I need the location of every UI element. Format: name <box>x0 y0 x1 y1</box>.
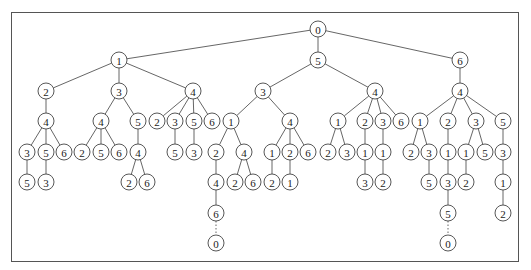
tree-node: 4 <box>185 83 201 99</box>
node-label: 6 <box>250 177 256 189</box>
tree-edge <box>268 97 284 115</box>
node-label: 4 <box>457 86 463 98</box>
tree-node: 6 <box>56 144 72 160</box>
node-label: 3 <box>473 116 479 128</box>
tree-node: 4 <box>93 113 109 129</box>
node-label: 4 <box>372 86 378 98</box>
tree-edge <box>86 128 97 145</box>
tree-node: 2 <box>38 83 54 99</box>
node-label: 2 <box>408 147 414 159</box>
node-label: 3 <box>116 86 122 98</box>
node-label: 6 <box>209 116 215 128</box>
tree-node: 4 <box>130 144 146 160</box>
node-label: 3 <box>380 116 386 128</box>
node-label: 3 <box>24 147 30 159</box>
tree-edge <box>179 98 189 114</box>
tree-node: 3 <box>19 144 35 160</box>
tree-node: 2 <box>320 144 336 160</box>
tree-node: 5 <box>421 174 437 190</box>
tree-edge <box>234 128 241 144</box>
node-label: 4 <box>135 147 141 159</box>
node-label: 4 <box>241 147 247 159</box>
tree-node: 3 <box>38 174 54 190</box>
tree-edge <box>31 128 42 145</box>
node-label: 2 <box>154 116 160 128</box>
tree-edge <box>340 129 345 145</box>
node-label: 2 <box>287 147 293 159</box>
node-label: 1 <box>500 177 506 189</box>
node-label: 4 <box>287 116 293 128</box>
tree-node: 2 <box>495 205 511 221</box>
tree-edge <box>478 129 483 145</box>
tree-node: 6 <box>393 113 409 129</box>
node-label: 1 <box>380 147 386 159</box>
tree-node: 0 <box>310 21 326 37</box>
node-label: 2 <box>232 177 238 189</box>
tree-edge <box>246 160 250 175</box>
node-label: 0 <box>445 238 451 250</box>
tree-node: 1 <box>412 113 428 129</box>
tree-node: 3 <box>440 174 456 190</box>
tree-edge <box>105 98 115 114</box>
tree-edge <box>105 128 115 145</box>
node-label: 5 <box>500 116 506 128</box>
tree-edge <box>270 64 311 87</box>
tree-node: 6 <box>245 174 261 190</box>
tree-node: 1 <box>223 113 239 129</box>
node-label: 0 <box>213 238 219 250</box>
tree-edge <box>468 129 473 145</box>
tree-node: 5 <box>477 144 493 160</box>
tree-node: 2 <box>282 144 298 160</box>
node-label: 3 <box>362 177 368 189</box>
tree-node: 2 <box>458 174 474 190</box>
tree-node: 2 <box>375 174 391 190</box>
tree-node: 2 <box>227 174 243 190</box>
node-label: 2 <box>269 177 275 189</box>
node-label: 2 <box>213 147 219 159</box>
tree-node: 5 <box>167 144 183 160</box>
tree-node: 5 <box>495 113 511 129</box>
tree-node: 5 <box>19 174 35 190</box>
node-label: 2 <box>380 177 386 189</box>
tree-node: 1 <box>375 144 391 160</box>
node-label: 6 <box>213 208 219 220</box>
node-label: 2 <box>79 147 85 159</box>
tree-diagram: 0156234344445235614123612353562564532412… <box>0 0 531 270</box>
node-label: 0 <box>315 24 321 36</box>
tree-node: 1 <box>282 174 298 190</box>
tree-node: 3 <box>167 113 183 129</box>
node-label: 4 <box>190 86 196 98</box>
tree-edge <box>451 98 457 113</box>
tree-edge <box>368 99 373 114</box>
tree-node: 4 <box>38 113 54 129</box>
node-label: 5 <box>172 147 178 159</box>
node-label: 5 <box>445 208 451 220</box>
tree-edge <box>325 64 368 87</box>
tree-node: 2 <box>357 113 373 129</box>
tree-edge <box>127 30 310 59</box>
node-label: 1 <box>228 116 234 128</box>
node-label: 5 <box>98 147 104 159</box>
nodes: 0156234344445235614123612353562564532412… <box>19 21 511 251</box>
node-label: 3 <box>500 147 506 159</box>
tree-node: 1 <box>495 174 511 190</box>
node-label: 4 <box>213 177 219 189</box>
tree-node: 2 <box>149 113 165 129</box>
node-label: 2 <box>43 86 49 98</box>
tree-edge <box>126 63 185 88</box>
node-label: 1 <box>445 147 451 159</box>
node-label: 5 <box>482 147 488 159</box>
node-label: 3 <box>191 147 197 159</box>
tree-node: 0 <box>440 235 456 251</box>
node-label: 6 <box>116 147 122 159</box>
node-label: 2 <box>126 177 132 189</box>
node-label: 5 <box>426 177 432 189</box>
tree-edge <box>131 160 135 175</box>
node-label: 2 <box>362 116 368 128</box>
tree-edge <box>377 99 381 114</box>
tree-node: 1 <box>111 52 127 68</box>
tree-node: 6 <box>208 205 224 221</box>
tree-node: 2 <box>74 144 90 160</box>
tree-node: 3 <box>339 144 355 160</box>
node-label: 5 <box>135 116 141 128</box>
